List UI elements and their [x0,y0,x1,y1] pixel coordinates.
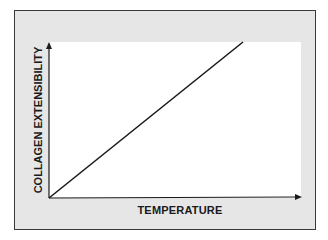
x-axis [49,194,302,200]
data-line [49,42,243,198]
y-axis [46,42,52,198]
x-axis-label: TEMPERATURE [110,204,250,216]
y-axis-label: COLLAGEN EXTENSIBILITY [32,30,44,210]
x-axis-arrow-icon [295,194,302,200]
y-axis-arrow-icon [46,42,52,49]
